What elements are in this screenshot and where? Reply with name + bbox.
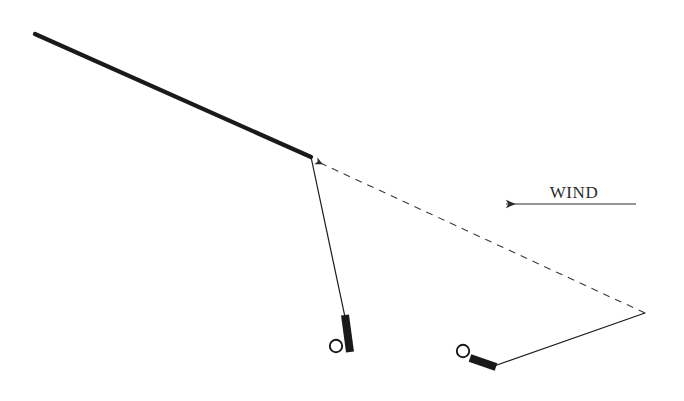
diagram-root: WIND xyxy=(0,0,684,401)
left-handle-grip xyxy=(345,315,350,352)
wind-label: WIND xyxy=(550,183,599,202)
kite-rigging-diagram: WIND xyxy=(0,0,684,401)
